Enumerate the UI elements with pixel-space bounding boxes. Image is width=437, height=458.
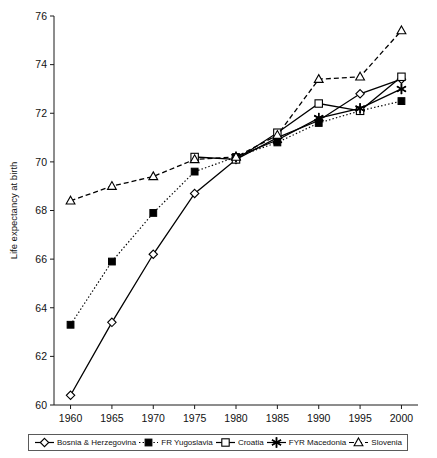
series-bosnia-herzegovina xyxy=(66,75,405,399)
legend-item-bosnia-herzegovina[interactable]: Bosnia & Herzegovina xyxy=(34,436,136,449)
marker-open-diamond xyxy=(40,438,48,446)
legend-item-slovenia[interactable]: Slovenia xyxy=(348,436,402,449)
marker-filled-square xyxy=(145,439,152,446)
marker-open-diamond xyxy=(149,250,157,258)
y-tick-label: 62 xyxy=(35,350,47,362)
x-tick-label: 1980 xyxy=(224,412,248,424)
y-tick-label: 72 xyxy=(35,107,47,119)
marker-open-diamond xyxy=(108,318,116,326)
marker-filled-square xyxy=(191,168,198,175)
legend-item-croatia[interactable]: Croatia xyxy=(215,436,264,449)
legend-item-label: Slovenia xyxy=(371,439,402,447)
marker-filled-square xyxy=(109,258,116,265)
legend-item-label: Bosnia & Herzegovina xyxy=(57,439,136,447)
series-fr-yugoslavia xyxy=(67,98,405,328)
marker-open-square xyxy=(398,73,405,80)
y-axis-title: Life expectancy at birth xyxy=(8,162,19,260)
chart-figure: 6062646668707274761960196519701975198019… xyxy=(0,0,437,458)
y-tick-label: 68 xyxy=(35,204,47,216)
y-tick-label: 74 xyxy=(35,58,47,70)
series-line xyxy=(195,77,402,160)
x-tick-label: 1970 xyxy=(142,412,166,424)
x-tick-label: 1975 xyxy=(183,412,207,424)
y-tick-label: 64 xyxy=(35,302,47,314)
series-slovenia xyxy=(66,26,406,204)
x-tick-label: 1985 xyxy=(266,412,290,424)
series-fyr-macedonia xyxy=(231,84,405,162)
marker-open-square xyxy=(222,439,229,446)
series-line xyxy=(71,101,402,325)
series-croatia xyxy=(191,73,405,163)
marker-open-diamond xyxy=(66,391,74,399)
x-tick-label: 2000 xyxy=(390,412,414,424)
y-tick-label: 66 xyxy=(35,253,47,265)
legend-item-label: Croatia xyxy=(238,439,264,447)
legend-key-open-square xyxy=(215,436,236,449)
marker-open-square xyxy=(315,100,322,107)
series-line xyxy=(71,79,402,395)
marker-open-triangle xyxy=(108,182,117,190)
marker-filled-square xyxy=(67,321,74,328)
legend-item-label: FYR Macedonia xyxy=(289,439,346,447)
x-tick-label: 1965 xyxy=(100,412,124,424)
legend-item-fr-yugoslavia[interactable]: FR Yugoslavia xyxy=(138,436,212,449)
chart-legend: Bosnia & HerzegovinaFR YugoslaviaCroatia… xyxy=(28,434,408,451)
legend-item-label: FR Yugoslavia xyxy=(161,439,212,447)
marker-filled-square xyxy=(398,98,405,105)
legend-item-fyr-macedonia[interactable]: FYR Macedonia xyxy=(266,436,346,449)
series-layer xyxy=(66,26,406,399)
marker-open-triangle xyxy=(397,26,406,34)
y-tick-label: 70 xyxy=(35,156,47,168)
legend-key-open-diamond xyxy=(34,436,55,449)
marker-open-triangle xyxy=(354,438,363,446)
y-tick-label: 60 xyxy=(35,399,47,411)
x-tick-label: 1990 xyxy=(307,412,331,424)
line-chart-plot: 6062646668707274761960196519701975198019… xyxy=(0,0,437,458)
x-tick-label: 1995 xyxy=(348,412,372,424)
y-axis-label: Life expectancy at birth xyxy=(8,162,19,260)
legend-key-star xyxy=(266,436,287,449)
y-tick-label: 76 xyxy=(35,10,47,22)
marker-star xyxy=(397,84,406,94)
series-line xyxy=(71,31,402,201)
marker-filled-square xyxy=(150,210,157,217)
legend-key-open-triangle xyxy=(348,436,369,449)
axis-layer: 6062646668707274761960196519701975198019… xyxy=(35,10,418,424)
marker-open-diamond xyxy=(356,90,364,98)
x-tick-label: 1960 xyxy=(59,412,83,424)
legend-key-filled-square xyxy=(138,436,159,449)
marker-open-triangle xyxy=(356,72,365,80)
